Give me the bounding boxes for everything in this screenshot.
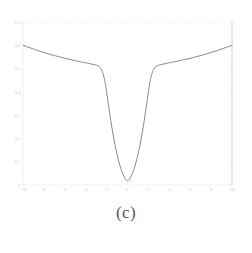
x-tick-label: 10 (230, 187, 235, 192)
x-tick-label: -10 (20, 187, 27, 192)
y-tick-label: 0.7 (15, 20, 21, 25)
x-tick-label: 4 (168, 187, 171, 192)
chart-svg: -10-8-6-4-20246810 00.10.20.30.40.50.60.… (0, 0, 252, 200)
plot-area: -10-8-6-4-20246810 00.10.20.30.40.50.60.… (0, 0, 252, 200)
x-tick-label: 0 (126, 187, 129, 192)
data-series-curve (23, 45, 232, 181)
x-tick-labels: -10-8-6-4-20246810 (20, 187, 235, 192)
y-tick-label: 0.5 (15, 66, 21, 71)
figure-caption: (c) (0, 203, 252, 223)
x-tick-label: 2 (147, 187, 150, 192)
x-tick-label: 8 (210, 187, 213, 192)
y-tick-label: 0.4 (15, 90, 21, 95)
x-tick-label: -6 (63, 187, 68, 192)
y-tick-label: 0.1 (15, 159, 21, 164)
x-tick-label: 6 (189, 187, 192, 192)
y-tick-label: 0.6 (15, 43, 21, 48)
figure-panel: -10-8-6-4-20246810 00.10.20.30.40.50.60.… (0, 0, 252, 253)
ticks-group (23, 22, 232, 185)
y-tick-label: 0.3 (15, 113, 21, 118)
y-tick-label: 0.2 (15, 136, 21, 141)
x-tick-label: -8 (42, 187, 47, 192)
axes-group (23, 22, 232, 185)
y-tick-labels: 00.10.20.30.40.50.60.7 (15, 20, 21, 188)
x-tick-label: -2 (105, 187, 110, 192)
x-tick-label: -4 (84, 187, 89, 192)
